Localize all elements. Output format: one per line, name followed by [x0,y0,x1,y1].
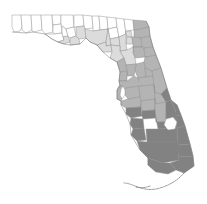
county-polk [139,85,155,101]
county-hardee [141,99,155,111]
county-sumter [126,64,136,76]
county-hillsborough [124,86,140,99]
county-walton [41,15,53,34]
county-charlotte [130,118,144,129]
county-holmes [52,15,61,25]
county-putnam [133,47,145,58]
county-jefferson [92,16,100,31]
county-orange [138,76,154,86]
county-santa-rosa [21,15,32,33]
county-wakulla [76,26,86,39]
county-hendry [146,128,178,142]
map-canvas [0,0,207,204]
county-union [126,31,132,37]
county-okaloosa [31,15,42,32]
county-gadsden [74,15,84,27]
county-washington [53,24,62,34]
florida-choropleth-map [0,0,207,204]
county-clay [132,37,142,47]
county-hernando [119,71,127,81]
county-desoto [142,110,156,119]
county-escambia [12,15,22,32]
county-madison [99,16,108,30]
